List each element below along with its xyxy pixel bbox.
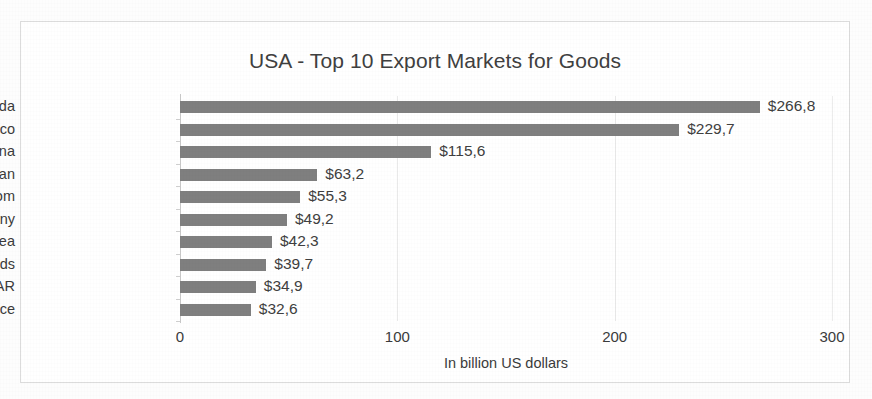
category-label-united-kingdom: United Kingdom	[0, 188, 15, 204]
bar-row: $63,2	[180, 164, 832, 187]
bar-row: $39,7	[180, 254, 832, 277]
category-label-china: China	[0, 143, 15, 159]
bar-value-label: $63,2	[325, 165, 364, 183]
bar-row: $115,6	[180, 141, 832, 164]
bar[interactable]	[180, 304, 251, 316]
bar-value-label: $229,7	[687, 120, 734, 138]
bar-row: $55,3	[180, 186, 832, 209]
value-tick-label-100: 100	[385, 328, 410, 345]
bar-value-label: $49,2	[295, 210, 334, 228]
bar[interactable]	[180, 259, 266, 271]
category-label-netherlands: Netherlands	[0, 256, 15, 272]
bar[interactable]	[180, 101, 760, 113]
bar-row: $42,3	[180, 231, 832, 254]
category-label-rep-of-korea: Rep. of Korea	[0, 233, 15, 249]
value-tick-label-200: 200	[602, 328, 627, 345]
scanned-page: USA - Top 10 Export Markets for Goods Ca…	[0, 0, 872, 399]
bar-value-label: $115,6	[439, 142, 485, 160]
bar[interactable]	[180, 281, 256, 293]
value-tick-label-0: 0	[176, 328, 184, 345]
bar[interactable]	[180, 236, 272, 248]
category-label-canada: Canada	[0, 98, 15, 114]
category-tick	[176, 321, 180, 322]
bar[interactable]	[180, 124, 679, 136]
category-label-mexico: Mexico	[0, 121, 15, 137]
category-label-france: France	[0, 301, 15, 317]
bar[interactable]	[180, 169, 317, 181]
bar-row: $266,8	[180, 96, 832, 119]
category-label-germany: Germany	[0, 211, 15, 227]
bar-row: $49,2	[180, 209, 832, 232]
category-axis-labels: CanadaMexicoChinaJapanUnited KingdomGerm…	[0, 96, 15, 321]
bar-value-label: $266,8	[768, 97, 815, 115]
bar-value-label: $34,9	[264, 277, 303, 295]
bar[interactable]	[180, 146, 431, 158]
bar[interactable]	[180, 191, 300, 203]
bar-row: $34,9	[180, 276, 832, 299]
chart-frame: USA - Top 10 Export Markets for Goods Ca…	[20, 21, 850, 383]
gridline-300	[832, 96, 833, 321]
chart-title: USA - Top 10 Export Markets for Goods	[21, 49, 849, 73]
plot-area: $266,8$229,7$115,6$63,2$55,3$49,2$42,3$3…	[180, 96, 832, 321]
bar-value-label: $39,7	[274, 255, 313, 273]
bar-row: $229,7	[180, 119, 832, 142]
bar-value-label: $42,3	[280, 232, 319, 250]
value-tick-label-300: 300	[819, 328, 844, 345]
value-axis-title: In billion US dollars	[180, 355, 832, 371]
bar[interactable]	[180, 214, 287, 226]
bar-value-label: $55,3	[308, 187, 347, 205]
bar-row: $32,6	[180, 299, 832, 322]
bar-value-label: $32,6	[259, 300, 298, 318]
category-label-hong-kong-sar: Hong Kong SAR	[0, 278, 15, 294]
category-label-japan: Japan	[0, 166, 15, 182]
